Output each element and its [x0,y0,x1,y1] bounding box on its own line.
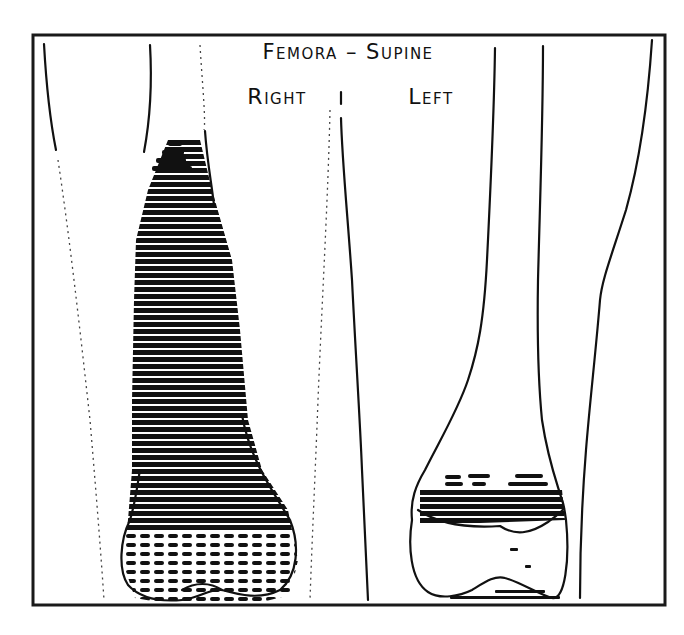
left-femur [341,40,652,600]
right-femur [44,44,330,610]
right-knee-lateral-faint [310,110,330,600]
right-femur-uptake-shading [110,140,310,610]
right-thigh-outer-faint [58,160,104,600]
right-thigh-outer-contour [44,44,56,150]
right-knee-faint-line [200,45,205,130]
right-thigh-inner-contour [144,45,151,152]
left-femur-shaft-medial [412,48,495,520]
diagram-title: Femora – Supine [262,40,433,64]
left-thigh-outer-contour [580,40,652,598]
femora-scan-diagram: Femora – Supine Right Left [0,0,684,635]
diagram-frame [33,35,665,605]
label-right: Right [247,84,306,109]
left-thigh-inner-contour [341,118,368,600]
label-left: Left [408,84,453,109]
left-femur-shaft-lateral [538,46,562,500]
